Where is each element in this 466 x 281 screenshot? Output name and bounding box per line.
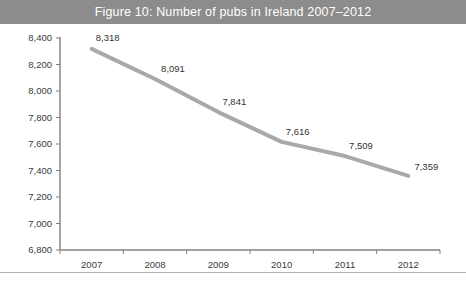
line-chart-svg [0, 24, 466, 281]
data-point-label: 8,091 [153, 64, 193, 74]
chart-series [92, 49, 409, 176]
page-title: Figure 10: Number of pubs in Ireland 200… [95, 0, 372, 24]
figure-title-bar: Figure 10: Number of pubs in Ireland 200… [0, 0, 466, 24]
y-axis-tick-label: 7,200 [0, 192, 52, 202]
y-axis-tick-label: 6,800 [0, 245, 52, 255]
figure-container: Figure 10: Number of pubs in Ireland 200… [0, 0, 466, 281]
series-line-number-of-pubs [92, 49, 409, 176]
x-axis-tick-label: 2009 [188, 260, 248, 270]
chart-axes [56, 37, 440, 254]
footer-divider [0, 272, 466, 273]
data-point-label: 7,509 [341, 141, 381, 151]
x-axis-tick-label: 2008 [125, 260, 185, 270]
y-axis-tick-label: 8,400 [0, 33, 52, 43]
y-axis-tick-label: 8,000 [0, 86, 52, 96]
y-axis-tick-label: 7,000 [0, 219, 52, 229]
chart-plot-area: 8,4008,2008,0007,8007,6007,4007,2007,000… [0, 24, 466, 281]
data-point-label: 7,841 [214, 97, 254, 107]
y-axis-tick-label: 7,600 [0, 139, 52, 149]
data-point-label: 8,318 [88, 33, 128, 43]
data-point-label: 7,359 [406, 162, 446, 172]
y-axis-tick-label: 8,200 [0, 60, 52, 70]
x-axis-tick-label: 2012 [378, 260, 438, 270]
y-axis-tick-label: 7,800 [0, 113, 52, 123]
x-axis-tick-label: 2011 [315, 260, 375, 270]
data-point-label: 7,616 [278, 127, 318, 137]
x-axis-tick-label: 2007 [62, 260, 122, 270]
x-axis-tick-label: 2010 [252, 260, 312, 270]
y-axis-tick-label: 7,400 [0, 166, 52, 176]
